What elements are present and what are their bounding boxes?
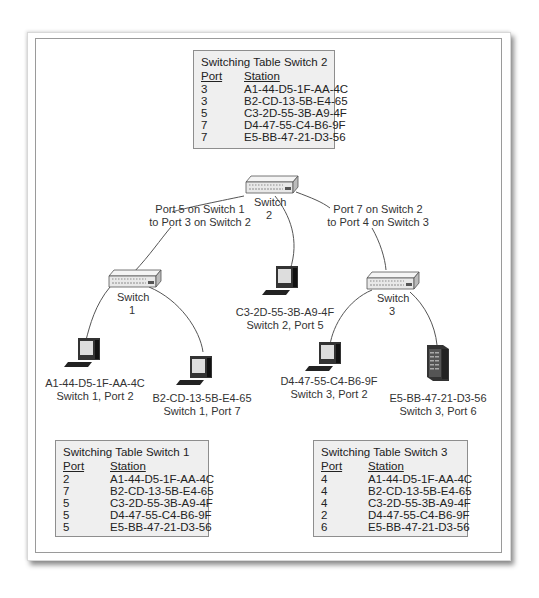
link-s1-b2 xyxy=(149,287,203,352)
link-label-line2: to Port 3 on Switch 2 xyxy=(135,216,265,229)
switch-label-line1: Switch xyxy=(117,291,147,304)
table-title: Switching Table Switch 1 xyxy=(63,446,189,459)
column-header-port: Port xyxy=(321,460,342,473)
switch-1-label: Switch 1 xyxy=(117,291,147,317)
station-a1-label: A1-44-D5-1F-AA-4C Switch 1, Port 2 xyxy=(40,377,150,403)
station-mac: A1-44-D5-1F-AA-4C xyxy=(40,377,150,390)
link-label-line2: to Port 4 on Switch 3 xyxy=(313,216,443,229)
table-cell-station: E5-BB-47-21-D3-56 xyxy=(244,131,346,144)
workstation-icon xyxy=(305,340,345,372)
station-c3-label: C3-2D-55-3B-A9-4F Switch 2, Port 5 xyxy=(230,306,340,332)
link-label-line1: Port 5 on Switch 1 xyxy=(135,203,265,216)
table-cell-port: 6 xyxy=(321,521,327,534)
station-d4-label: D4-47-55-C4-B6-9F Switch 3, Port 2 xyxy=(274,375,384,401)
table-cell-port: 5 xyxy=(63,521,69,534)
link-s1-a1 xyxy=(86,287,110,340)
link-label-line1: Port 7 on Switch 2 xyxy=(313,203,443,216)
column-header-station: Station xyxy=(244,70,280,83)
link-label-s1-s2: Port 5 on Switch 1 to Port 3 on Switch 2 xyxy=(135,203,265,229)
switch-label-line1: Switch xyxy=(377,292,407,305)
workstation-icon xyxy=(262,264,302,296)
station-location: Switch 1, Port 7 xyxy=(147,405,257,418)
station-location: Switch 2, Port 5 xyxy=(230,319,340,332)
switch-icon xyxy=(364,270,420,292)
switching-table-switch-3: Switching Table Switch 3 Port Station 4 … xyxy=(313,440,468,537)
station-location: Switch 1, Port 2 xyxy=(40,390,150,403)
switch-label-line2: 1 xyxy=(117,304,147,317)
switch-3-label: Switch 3 xyxy=(377,292,407,318)
station-location: Switch 3, Port 2 xyxy=(274,388,384,401)
table-title: Switching Table Switch 3 xyxy=(321,446,447,459)
column-header-station: Station xyxy=(368,460,404,473)
link-label-s2-s3: Port 7 on Switch 2 to Port 4 on Switch 3 xyxy=(313,203,443,229)
table-cell-station: E5-BB-47-21-D3-56 xyxy=(368,521,470,534)
workstation-icon xyxy=(176,354,216,386)
switch-icon xyxy=(106,268,162,290)
column-header-port: Port xyxy=(201,70,222,83)
switch-label-line2: 3 xyxy=(377,305,407,318)
station-location: Switch 3, Port 6 xyxy=(383,405,493,418)
station-b2-label: B2-CD-13-5B-E4-65 Switch 1, Port 7 xyxy=(147,392,257,418)
link-s2-s1-lower xyxy=(134,227,171,272)
link-s3-s2-lower xyxy=(372,228,386,270)
link-s3-e5 xyxy=(410,292,437,345)
station-mac: D4-47-55-C4-B6-9F xyxy=(274,375,384,388)
column-header-port: Port xyxy=(63,460,84,473)
station-mac: C3-2D-55-3B-A9-4F xyxy=(230,306,340,319)
station-mac: B2-CD-13-5B-E4-65 xyxy=(147,392,257,405)
table-title: Switching Table Switch 2 xyxy=(201,56,327,69)
station-e5-label: E5-BB-47-21-D3-56 Switch 3, Port 6 xyxy=(383,392,493,418)
workstation-icon xyxy=(64,336,104,368)
switch-icon xyxy=(243,174,299,196)
switching-table-switch-1: Switching Table Switch 1 Port Station 2 … xyxy=(55,440,209,537)
column-header-station: Station xyxy=(110,460,146,473)
station-mac: E5-BB-47-21-D3-56 xyxy=(383,392,493,405)
server-icon xyxy=(425,343,451,383)
switching-table-switch-2: Switching Table Switch 2 Port Station 3 … xyxy=(193,50,335,149)
table-cell-port: 7 xyxy=(201,131,207,144)
table-cell-station: E5-BB-47-21-D3-56 xyxy=(110,521,212,534)
